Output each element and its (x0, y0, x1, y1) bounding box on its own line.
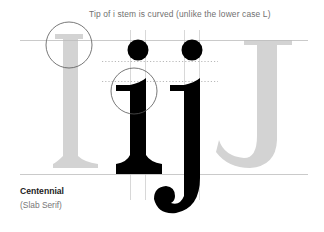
j-dot (182, 40, 203, 61)
typography-diagram: Tip of i stem is curved (unlike the lowe… (0, 0, 324, 232)
ghost-capital-i-glyph (53, 34, 98, 168)
ghost-capital-j-glyph (216, 40, 292, 168)
dotted-guide-lines (102, 62, 218, 82)
font-classification-label: (Slab Serif) (20, 200, 62, 210)
font-name-label: Centennial (20, 186, 64, 196)
lowercase-i-glyph (116, 40, 162, 175)
i-dot (128, 40, 149, 61)
glyph-comparison-figure (0, 0, 324, 232)
lowercase-j-glyph (154, 40, 203, 214)
